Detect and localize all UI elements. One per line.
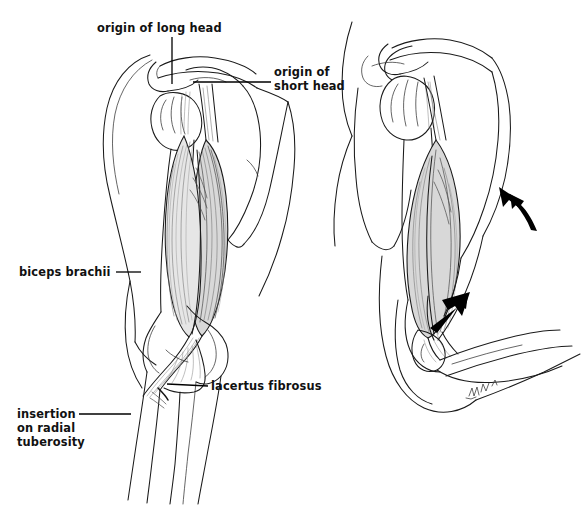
label-insertion-line3: tuberosity xyxy=(17,435,85,449)
label-origin-short-head-line1: origin of xyxy=(274,65,331,79)
label-insertion-line1: insertion xyxy=(17,407,76,421)
illustration-canvas: origin of long head origin of short head… xyxy=(0,0,585,506)
label-origin-long-head: origin of long head xyxy=(97,21,222,35)
humeral-head-right xyxy=(380,76,435,140)
anatomy-figure: origin of long head origin of short head… xyxy=(0,0,585,506)
label-insertion-line2: on radial xyxy=(17,421,75,435)
label-lacertus-fibrosus: lacertus fibrosus xyxy=(211,379,322,393)
label-biceps-brachii: biceps brachii xyxy=(19,265,111,279)
label-origin-short-head-line2: short head xyxy=(274,79,345,93)
